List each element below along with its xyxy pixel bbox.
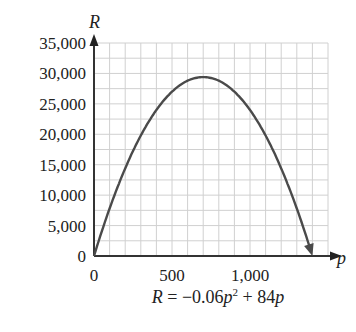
y-axis-arrow-icon [90,34,99,46]
equation-linear: + 84 [238,287,275,307]
curve-arrow-icon [304,243,314,256]
x-axis-label: p [335,248,346,268]
x-tick-label: 1,000 [231,266,269,285]
equation-var2: p [275,287,284,307]
equation-var1: p [224,287,233,307]
grid [94,43,328,256]
x-tick-labels: 05001,000 [90,266,269,285]
y-tick-label: 5,000 [48,217,86,236]
y-tick-labels: 05,00010,00015,00020,00025,00030,00035,0… [39,34,86,266]
y-tick-label: 0 [78,247,87,266]
y-tick-label: 10,000 [39,186,86,205]
equation-caption: R = −0.06p2 + 84p [0,286,356,308]
y-tick-label: 15,000 [39,156,86,175]
y-tick-label: 25,000 [39,95,86,114]
equation-lhs: R [152,287,163,307]
y-tick-label: 30,000 [39,64,86,83]
x-tick-label: 0 [90,266,99,285]
x-tick-label: 500 [159,266,185,285]
y-tick-label: 20,000 [39,125,86,144]
y-tick-label: 35,000 [39,34,86,53]
revenue-chart: 05,00010,00015,00020,00025,00030,00035,0… [0,0,356,332]
y-axis-label: R [88,12,100,32]
equation-coef: = −0.06 [163,287,224,307]
